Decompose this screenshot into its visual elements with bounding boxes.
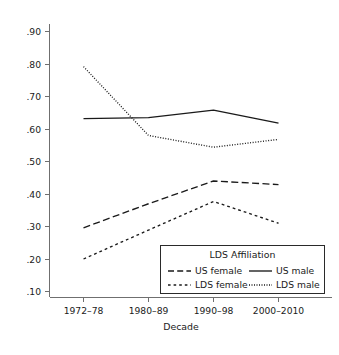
y-tick-label: .10 <box>26 286 41 297</box>
x-tick-label: 2000–2010 <box>253 305 305 316</box>
series-line-lds-male <box>84 67 279 148</box>
y-tick-label: .50 <box>26 156 41 167</box>
legend-label-lds-male: LDS male <box>276 279 320 290</box>
legend-title: LDS Affiliation <box>210 249 276 260</box>
y-tick-label: .30 <box>26 221 41 232</box>
x-tick-label: 1980–89 <box>129 305 169 316</box>
series-group <box>84 67 279 259</box>
legend-label-us-male: US male <box>276 265 315 276</box>
legend-label-lds-female: LDS female <box>195 279 248 290</box>
legend-label-us-female: US female <box>195 265 242 276</box>
x-tick-label: 1972–78 <box>64 305 104 316</box>
x-axis-tick-labels: 1972–78 1980–89 1990–98 2000–2010 <box>64 305 305 316</box>
y-tick-label: .80 <box>26 59 41 70</box>
y-tick-label: .40 <box>26 189 41 200</box>
x-tick-label: 1990–98 <box>194 305 234 316</box>
y-axis-tick-labels: .90 .80 .70 .60 .50 .40 .30 .20 .10 <box>26 26 41 297</box>
chart-canvas: .90 .80 .70 .60 .50 .40 .30 .20 .10 1972… <box>0 0 339 355</box>
series-line-us-female <box>84 181 279 228</box>
line-chart: .90 .80 .70 .60 .50 .40 .30 .20 .10 1972… <box>0 0 339 355</box>
y-tick-label: .90 <box>26 26 41 37</box>
y-tick-label: .60 <box>26 124 41 135</box>
y-axis-ticks <box>45 32 50 292</box>
series-line-us-male <box>84 110 279 123</box>
y-tick-label: .70 <box>26 91 41 102</box>
x-axis-title: Decade <box>163 321 199 332</box>
y-tick-label: .20 <box>26 254 41 265</box>
chart-legend: LDS Affiliation US female US male LDS fe… <box>161 246 325 294</box>
x-axis-ticks <box>84 298 279 303</box>
